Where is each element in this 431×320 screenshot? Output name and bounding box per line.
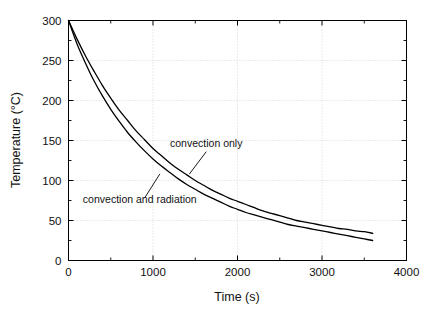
y-axis-title: Temperature (°C) [9,92,23,188]
y-tick-label: 50 [49,215,62,227]
x-tick-label: 1000 [140,266,166,278]
y-tick-label: 250 [42,55,61,67]
x-axis-title: Time (s) [214,290,259,304]
y-tick-label: 100 [42,175,61,187]
y-tick-label: 200 [42,95,61,107]
x-tick-label: 2000 [225,266,251,278]
chart-figure: 01000200030004000 050100150200250300 con… [0,0,431,320]
annotation-label: convection and radiation [83,193,197,205]
x-tick-label: 3000 [309,266,335,278]
annotation-label: convection only [170,137,243,149]
x-tick-label: 4000 [394,266,420,278]
y-tick-label: 150 [42,135,61,147]
y-tick-label: 300 [42,15,61,27]
x-tick-label: 0 [65,266,71,278]
temperature-vs-time-line-chart: 01000200030004000 050100150200250300 con… [0,0,431,320]
y-tick-label: 0 [55,255,61,267]
